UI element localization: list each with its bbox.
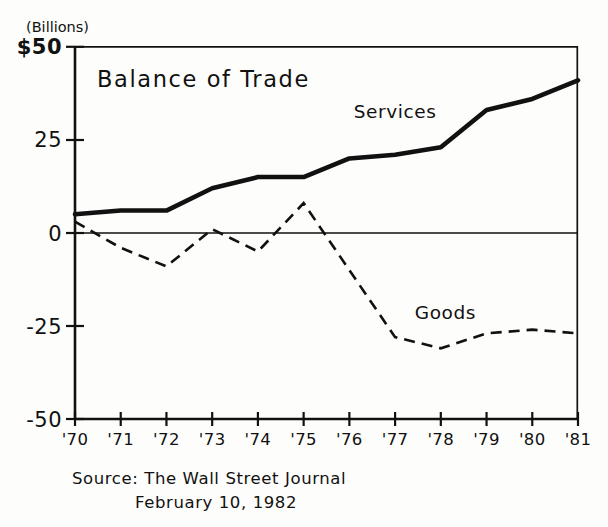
y-tick-label-0: 0: [48, 222, 62, 246]
x-tick-label-81: '81: [565, 430, 592, 449]
x-tick-label-77: '77: [382, 430, 409, 449]
x-tick-label-78: '78: [427, 430, 454, 449]
x-tick-label-74: '74: [245, 430, 272, 449]
x-tick-label-72: '72: [153, 430, 180, 449]
unit-label: (Billions): [26, 19, 89, 35]
x-tick-label-76: '76: [336, 430, 363, 449]
y-tick-label-50: $50: [17, 35, 62, 59]
x-tick-label-70: '70: [62, 430, 89, 449]
y-tick-label-25: 25: [34, 128, 62, 152]
chart-figure: (Billions) $50 25 0 -25 -50 '70'71'72'73…: [0, 0, 608, 527]
series-label-services: Services: [354, 101, 437, 122]
series-line-goods: [75, 203, 578, 348]
series-label-goods: Goods: [415, 302, 476, 323]
y-tick-label-neg25: -25: [26, 315, 62, 339]
x-tick-label-79: '79: [473, 430, 500, 449]
x-tick-label-75: '75: [290, 430, 317, 449]
chart-title: Balance of Trade: [97, 66, 310, 92]
x-tick-label-71: '71: [107, 430, 134, 449]
y-tick-label-neg50: -50: [26, 408, 62, 432]
x-tick-label-80: '80: [519, 430, 546, 449]
source-line-2: February 10, 1982: [135, 493, 297, 512]
x-tick-label-73: '73: [199, 430, 226, 449]
source-line-1: Source: The Wall Street Journal: [72, 469, 346, 488]
x-tick-labels: '70'71'72'73'74'75'76'77'78'79'80'81: [62, 430, 592, 449]
series-line-services: [75, 80, 578, 214]
balance-of-trade-chart: (Billions) $50 25 0 -25 -50 '70'71'72'73…: [0, 0, 608, 527]
